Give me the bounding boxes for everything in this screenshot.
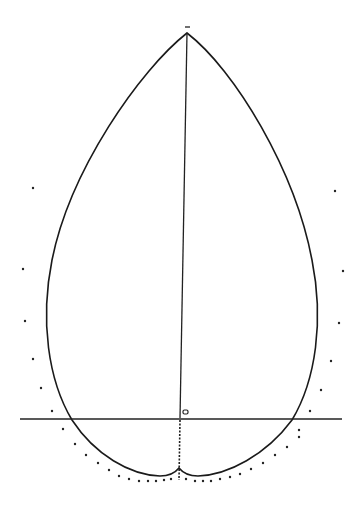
envelope-dot [320, 389, 322, 391]
envelope-dot [219, 478, 221, 480]
envelope-dot [334, 190, 336, 192]
teardrop-diagram [0, 0, 363, 507]
envelope-dot [330, 360, 332, 362]
envelope-dot [250, 468, 252, 470]
envelope-dot [118, 475, 120, 477]
envelope-dot [229, 476, 231, 478]
envelope-dot [274, 454, 276, 456]
envelope-dot [309, 410, 311, 412]
envelope-dot [298, 436, 300, 438]
envelope-dot [163, 479, 165, 481]
envelope-dot [286, 446, 288, 448]
central-vertical-axis [180, 33, 187, 418]
envelope-dot [298, 429, 300, 431]
center-point-marker [183, 410, 188, 414]
envelope-dot [202, 480, 204, 482]
envelope-dot [147, 480, 149, 482]
envelope-dot [138, 480, 140, 482]
envelope-dot [32, 358, 34, 360]
envelope-dot [194, 480, 196, 482]
envelope-dot [62, 428, 64, 430]
envelope-dot [74, 443, 76, 445]
envelope-dot [239, 473, 241, 475]
envelope-dot [342, 270, 344, 272]
envelope-dot [170, 478, 172, 480]
envelope-dot [108, 469, 110, 471]
lower-dashed-axis [179, 420, 180, 480]
envelope-dot [32, 187, 34, 189]
envelope-dot [185, 478, 187, 480]
envelope-dot [210, 480, 212, 482]
envelope-dot [338, 322, 340, 324]
envelope-dot [51, 410, 53, 412]
envelope-dot [24, 320, 26, 322]
teardrop-outline [46, 33, 317, 476]
envelope-dot [22, 268, 24, 270]
envelope-dot [40, 387, 42, 389]
envelope-dot [85, 454, 87, 456]
envelope-dot [97, 462, 99, 464]
envelope-dot [128, 478, 130, 480]
envelope-dot [262, 462, 264, 464]
envelope-dot [155, 480, 157, 482]
